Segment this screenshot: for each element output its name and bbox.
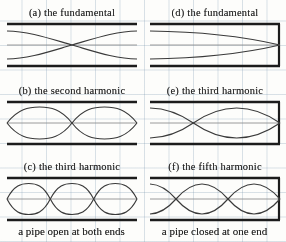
- panel-d-plot: [150, 21, 280, 69]
- panel-f: (f) the fifth harmonic: [150, 160, 280, 223]
- panel-e-label: (e) the third harmonic: [150, 84, 280, 98]
- panel-e-plot: [150, 99, 280, 147]
- wave-upper: [150, 31, 280, 45]
- panel-a: (a) the fundamental: [7, 6, 137, 69]
- panel-d-svg: [150, 21, 280, 69]
- caption-closed-pipe: a pipe closed at one end: [143, 224, 286, 238]
- panel-f-plot: [150, 175, 280, 223]
- wave-lower: [150, 45, 280, 59]
- panel-c: (c) the third harmonic: [7, 160, 137, 223]
- panel-a-label: (a) the fundamental: [7, 6, 137, 20]
- panel-b-label: (b) the second harmonic: [7, 84, 137, 98]
- figure-root: (a) the fundamental (b) the second harmo…: [0, 0, 286, 242]
- panel-d-label: (d) the fundamental: [150, 6, 280, 20]
- panel-c-plot: [7, 175, 137, 223]
- panel-b-plot: [7, 99, 137, 147]
- panel-a-svg: [7, 21, 137, 69]
- caption-open-pipe: a pipe open at both ends: [0, 224, 143, 238]
- panel-e-svg: [150, 99, 280, 147]
- panel-f-label: (f) the fifth harmonic: [150, 160, 280, 174]
- panel-e: (e) the third harmonic: [150, 84, 280, 147]
- panel-a-plot: [7, 21, 137, 69]
- panel-c-label: (c) the third harmonic: [7, 160, 137, 174]
- panel-b-svg: [7, 99, 137, 147]
- panel-d: (d) the fundamental: [150, 6, 280, 69]
- column-closed-pipe: (d) the fundamental (e) the third harmon…: [143, 0, 286, 242]
- panel-b: (b) the second harmonic: [7, 84, 137, 147]
- panel-c-svg: [7, 175, 137, 223]
- panel-f-svg: [150, 175, 280, 223]
- column-open-pipe: (a) the fundamental (b) the second harmo…: [0, 0, 143, 242]
